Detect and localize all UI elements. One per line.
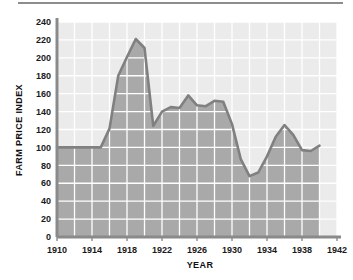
y-tick-label: 200 — [36, 53, 51, 63]
y-tick-label: 80 — [41, 161, 51, 171]
y-tick-label: 140 — [36, 107, 51, 117]
y-tick-label: 100 — [36, 143, 51, 153]
y-tick-label: 160 — [36, 89, 51, 99]
y-tick-label: 120 — [36, 125, 51, 135]
y-axis-title: FARM PRICE INDEX — [14, 84, 24, 176]
x-tick-label: 1922 — [152, 245, 172, 255]
y-tick-label: 40 — [41, 196, 51, 206]
x-tick-label: 1934 — [257, 245, 277, 255]
x-tick-label: 1918 — [117, 245, 137, 255]
y-tick-label: 220 — [36, 35, 51, 45]
y-tick-label: 240 — [36, 17, 51, 27]
y-tick-label: 180 — [36, 71, 51, 81]
x-tick-label: 1910 — [47, 245, 67, 255]
x-tick-label: 1930 — [222, 245, 242, 255]
figure-container: 020406080100120140160180200220240 191019… — [0, 0, 353, 280]
x-tick-label: 1926 — [187, 245, 207, 255]
x-axis-title: YEAR — [187, 260, 214, 270]
y-tick-label: 20 — [41, 214, 51, 224]
x-tick-label: 1942 — [327, 245, 347, 255]
y-tick-label: 0 — [46, 232, 51, 242]
y-tick-label: 60 — [41, 178, 51, 188]
x-tick-label: 1914 — [82, 245, 102, 255]
farm-price-index-line-chart: 020406080100120140160180200220240 191019… — [0, 0, 353, 280]
x-tick-labels-group: 191019141918192219261930193419381942 — [47, 245, 347, 255]
x-tick-label: 1938 — [292, 245, 312, 255]
y-tick-labels-group: 020406080100120140160180200220240 — [36, 17, 51, 242]
